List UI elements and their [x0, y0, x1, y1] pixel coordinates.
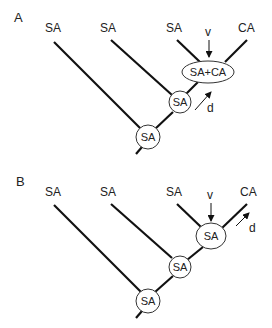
- branch-line: [155, 112, 173, 129]
- phylogeny-figure: A SA SA SA CA v SA+CA SA SA d B SA SA SA…: [0, 0, 272, 328]
- branch-line: [225, 40, 247, 62]
- d-label: d: [249, 221, 256, 235]
- panel-label-b: B: [16, 174, 25, 189]
- branch-line: [111, 204, 172, 258]
- branch-line: [186, 82, 198, 94]
- node-label: SA: [141, 295, 156, 307]
- d-label: d: [207, 101, 214, 115]
- leaf-label: SA: [166, 185, 182, 199]
- panel-b: B SA SA SA CA v SA SA SA d: [16, 174, 257, 318]
- leaf-label: SA: [166, 21, 182, 35]
- branch-line: [177, 204, 201, 227]
- node-label: SA: [204, 230, 219, 242]
- v-label: v: [207, 188, 213, 202]
- leaf-label: CA: [238, 21, 255, 35]
- root-stem: [136, 311, 142, 318]
- leaf-label: SA: [100, 21, 116, 35]
- node-label: SA: [173, 261, 188, 273]
- branch-line: [111, 40, 172, 95]
- branch-line: [222, 204, 247, 228]
- d-arrow-icon: [236, 213, 249, 226]
- leaf-label: SA: [45, 21, 61, 35]
- v-label: v: [205, 25, 211, 39]
- branch-line: [155, 276, 173, 292]
- panel-label-a: A: [14, 10, 23, 25]
- node-label: SA+CA: [190, 66, 227, 78]
- leaf-label: SA: [45, 185, 61, 199]
- root-stem: [136, 147, 142, 154]
- leaf-label: SA: [100, 185, 116, 199]
- node-label: SA: [173, 96, 188, 108]
- branch-line: [177, 40, 200, 62]
- node-label: SA: [141, 131, 156, 143]
- leaf-label: CA: [240, 185, 257, 199]
- branch-line: [187, 247, 203, 260]
- panel-a: A SA SA SA CA v SA+CA SA SA d: [14, 10, 255, 154]
